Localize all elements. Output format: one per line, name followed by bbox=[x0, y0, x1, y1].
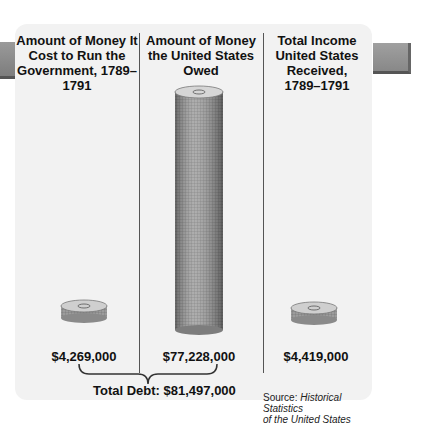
coin-stack-small-icon bbox=[59, 294, 109, 334]
column-title-cost: Amount of Money It Cost to Run the Gover… bbox=[16, 33, 138, 93]
source-note: Source: Historical Statistics of the Uni… bbox=[263, 392, 372, 425]
chart-panel: Amount of Money It Cost to Run the Gover… bbox=[15, 24, 372, 400]
total-debt-label: Total Debt: $81,497,000 bbox=[93, 383, 236, 398]
side-tab-right bbox=[373, 43, 411, 74]
value-owed: $77,228,000 bbox=[139, 349, 259, 364]
value-income: $4,419,000 bbox=[256, 349, 376, 364]
side-tab-left bbox=[0, 42, 16, 79]
column-divider bbox=[263, 33, 264, 373]
column-title-income: Total Income United States Received, 178… bbox=[267, 33, 367, 93]
value-cost: $4,269,000 bbox=[24, 349, 144, 364]
column-title-owed: Amount of Money the United States Owed bbox=[142, 33, 260, 78]
coin-stack-small-icon bbox=[289, 296, 339, 336]
coin-stack-tall-icon bbox=[173, 84, 225, 340]
column-divider bbox=[139, 33, 140, 373]
